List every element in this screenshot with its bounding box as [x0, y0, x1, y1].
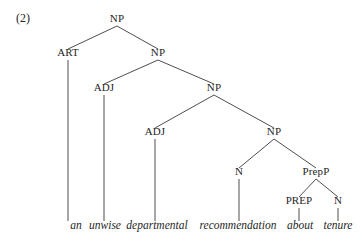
- syntax-tree-figure: NPARTNPADJNPADJNPNPrepPPREPN anunwisedep…: [0, 0, 362, 244]
- tree-node-np-3: NP: [207, 81, 221, 93]
- branch-np-4-to-prepp-1: [274, 139, 316, 168]
- tree-node-n-1: N: [235, 165, 243, 177]
- terminal-word-unwise: unwise: [89, 219, 121, 231]
- tree-node-prep-1: PREP: [286, 194, 313, 206]
- branch-np-4-to-n-1: [239, 139, 274, 168]
- branch-np-3-to-np-4: [214, 95, 274, 128]
- syntax-tree-svg: NPARTNPADJNPADJNPNPrepPPREPN anunwisedep…: [0, 0, 362, 244]
- tree-node-np-4: NP: [267, 125, 281, 137]
- tree-node-prepp-1: PrepP: [303, 165, 330, 177]
- terminal-word-about: about: [287, 219, 314, 231]
- branch-np-2-to-np-3: [158, 60, 214, 84]
- example-number: (2): [16, 11, 30, 25]
- branch-np-3-to-adj-2: [155, 95, 214, 128]
- node-label-layer: NPARTNPADJNPADJNPNPrepPPREPN: [57, 12, 342, 206]
- terminal-word-departmental: departmental: [126, 219, 187, 232]
- tree-node-n-2: N: [334, 194, 342, 206]
- terminal-word-tenure: tenure: [324, 219, 353, 231]
- tree-node-adj-1: ADJ: [94, 81, 115, 93]
- tree-node-np-2: NP: [151, 46, 165, 58]
- tree-node-np-root: NP: [110, 12, 124, 24]
- branch-layer: [68, 26, 338, 197]
- terminal-word-layer: anunwisedepartmentalrecommendationaboutt…: [70, 219, 352, 232]
- tree-node-adj-2: ADJ: [145, 125, 166, 137]
- terminal-word-an: an: [70, 219, 82, 231]
- terminal-word-recommendation: recommendation: [200, 219, 277, 231]
- tree-node-art-1: ART: [57, 46, 79, 58]
